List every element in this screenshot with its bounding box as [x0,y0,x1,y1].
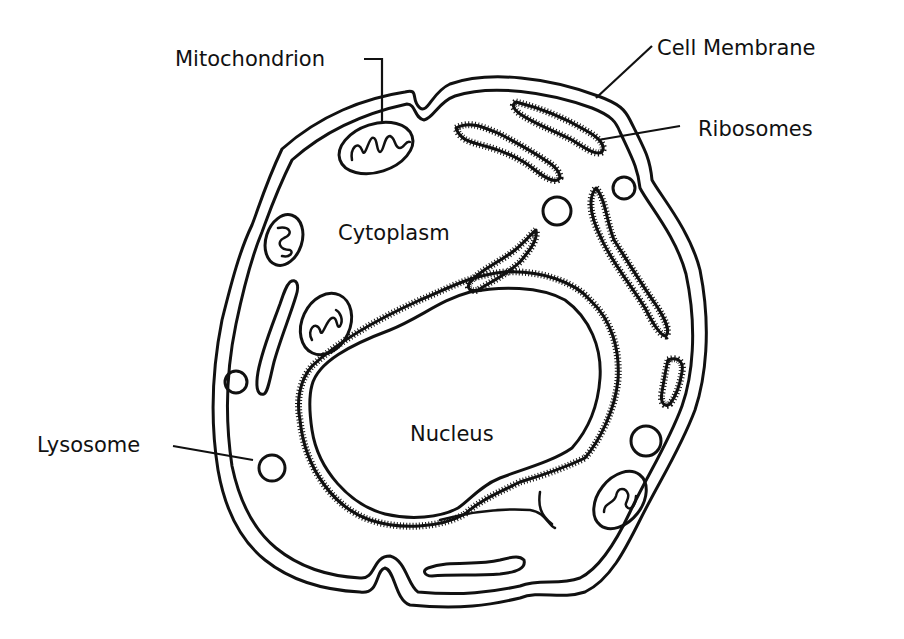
smooth-endoplasmic-reticulum [425,557,525,576]
cell-membrane [213,77,706,607]
label-lysosome: Lysosome [37,433,140,457]
label-nucleus: Nucleus [410,422,494,446]
lysosome [613,177,635,199]
nucleus [299,272,619,528]
rough-endoplasmic-reticulum [661,359,682,406]
lysosome [259,455,285,481]
lysosome [631,426,661,456]
label-mitochondrion: Mitochondrion [175,47,325,71]
rough-endoplasmic-reticulum [456,125,560,181]
label-cytoplasm: Cytoplasm [338,221,450,245]
rough-endoplasmic-reticulum [513,102,603,153]
lysosome [543,197,571,225]
cell-diagram: Mitochondrion Cell Membrane Ribosomes Cy… [0,0,904,639]
mitochondrion [583,461,657,539]
smooth-endoplasmic-reticulum [257,281,298,394]
label-cell-membrane: Cell Membrane [657,36,815,60]
lysosome-leader [173,446,253,460]
rough-endoplasmic-reticulum [468,230,536,291]
cell-membrane-leader [596,46,652,98]
label-ribosomes: Ribosomes [698,117,813,141]
